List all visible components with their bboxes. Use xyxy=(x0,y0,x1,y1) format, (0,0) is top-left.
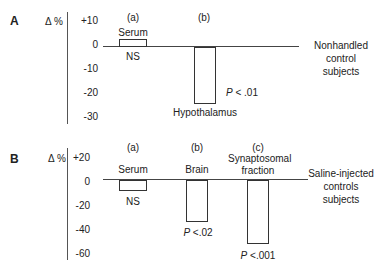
hypo-sig: P < .01 xyxy=(226,87,258,98)
panel-a-ylabel: Δ % xyxy=(45,16,63,27)
ref-label-2: control xyxy=(306,53,375,64)
synaptosomal-sig: P <.001 xyxy=(237,250,279,261)
tick: -60 xyxy=(60,248,90,259)
brain-label: Brain xyxy=(177,164,217,175)
tick: -10 xyxy=(68,63,98,74)
bar-serum xyxy=(119,39,147,47)
tick: 0 xyxy=(68,39,98,50)
bar-brain xyxy=(186,180,208,222)
ref-label-3: subjects xyxy=(306,66,375,77)
ref-label-2: controls xyxy=(306,181,375,192)
tick: -30 xyxy=(68,111,98,122)
serum-label: Serum xyxy=(113,27,153,38)
synaptosomal-label-2: fraction xyxy=(228,165,288,176)
bar-hypothalamus xyxy=(194,47,216,104)
ref-label-3: subjects xyxy=(306,194,375,205)
ref-label-1: Nonhandled xyxy=(306,40,375,51)
tag-b: (b) xyxy=(182,142,212,153)
bar-serum xyxy=(119,180,147,191)
tag-a: (a) xyxy=(118,12,148,23)
serum-label: Serum xyxy=(113,164,153,175)
tag-a: (a) xyxy=(118,142,148,153)
tick: +10 xyxy=(68,15,98,26)
tick: -20 xyxy=(60,200,90,211)
tag-c: (c) xyxy=(243,142,273,153)
tick: -40 xyxy=(60,224,90,235)
tag-b: (b) xyxy=(189,12,219,23)
serum-sig: NS xyxy=(118,196,148,207)
bar-synaptosomal xyxy=(247,180,269,244)
synaptosomal-label-1: Synaptosomal xyxy=(228,153,288,164)
tick: +20 xyxy=(60,152,90,163)
hypothalamus-label: Hypothalamus xyxy=(172,107,238,118)
brain-sig: P <.02 xyxy=(180,227,216,238)
ref-label-1: Saline-injected xyxy=(306,168,375,179)
tick: 0 xyxy=(60,176,90,187)
panel-a-letter: A xyxy=(10,14,19,28)
tick: -20 xyxy=(68,87,98,98)
serum-sig: NS xyxy=(118,51,148,62)
panel-b-letter: B xyxy=(10,152,19,166)
